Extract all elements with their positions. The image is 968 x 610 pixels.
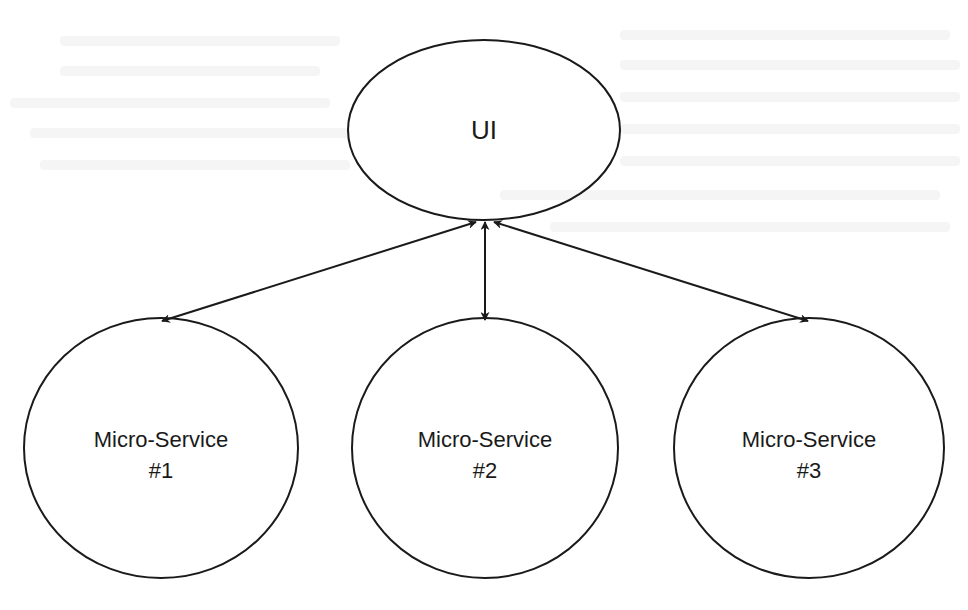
- edge-ui-ms3: [494, 222, 808, 321]
- edges: [162, 222, 808, 321]
- micro-service-2-label-line1: Micro-Service: [418, 427, 552, 452]
- micro-service-3-label-line2: #3: [797, 458, 821, 483]
- edge-ui-ms1: [162, 222, 476, 321]
- micro-service-1-label-line1: Micro-Service: [94, 427, 228, 452]
- node-micro-service-3: Micro-Service #3: [674, 318, 944, 578]
- micro-service-3-label-line1: Micro-Service: [742, 427, 876, 452]
- micro-service-1-label-line2: #1: [149, 458, 173, 483]
- micro-service-2-label-line2: #2: [473, 458, 497, 483]
- node-micro-service-1: Micro-Service #1: [24, 318, 298, 578]
- ui-label: UI: [471, 115, 497, 145]
- diagram-canvas: UI Micro-Service #1 Micro-Service #2 Mic…: [0, 0, 968, 610]
- node-micro-service-2: Micro-Service #2: [352, 318, 618, 578]
- architecture-diagram: UI Micro-Service #1 Micro-Service #2 Mic…: [0, 0, 968, 610]
- node-ui: UI: [348, 40, 620, 220]
